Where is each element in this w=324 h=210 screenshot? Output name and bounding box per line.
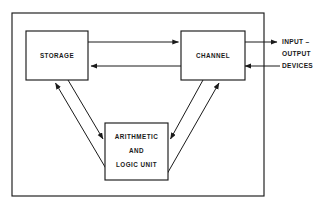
- io-devices-label-line-1: INPUT –: [282, 38, 309, 45]
- connector-alu-to-channel: [167, 83, 219, 174]
- diagram-canvas: STORAGE CHANNEL ARITHMETIC AND LOGIC UNI…: [0, 0, 324, 210]
- block-storage-label: STORAGE: [40, 52, 74, 59]
- block-alu-label-line-1: ARITHMETIC: [115, 133, 158, 140]
- connector-channel-to-alu: [171, 80, 204, 139]
- computer-system-block-diagram: STORAGE CHANNEL ARITHMETIC AND LOGIC UNI…: [0, 0, 324, 210]
- io-devices-label-line-2: OUTPUT: [282, 50, 311, 57]
- block-channel-label: CHANNEL: [196, 52, 230, 59]
- io-devices-label-line-3: DEVICES: [282, 62, 313, 69]
- connector-alu-to-storage: [56, 83, 109, 172]
- block-alu-label-line-2: AND: [129, 147, 144, 154]
- block-alu-label-line-3: LOGIC UNIT: [116, 161, 157, 168]
- connector-storage-to-alu: [68, 80, 103, 139]
